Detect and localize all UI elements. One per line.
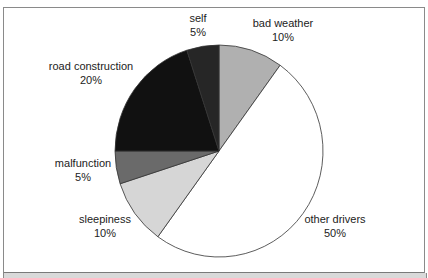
label-malfunction: malfunction 5% xyxy=(55,157,111,184)
label-self: self 5% xyxy=(189,12,206,39)
label-other-drivers-pct: 50% xyxy=(304,227,365,241)
label-self-pct: 5% xyxy=(189,26,206,40)
label-sleepiness-pct: 10% xyxy=(79,227,131,241)
label-other-drivers-name: other drivers xyxy=(304,213,365,227)
label-road-construction: road construction 20% xyxy=(49,60,133,87)
label-malfunction-name: malfunction xyxy=(55,157,111,171)
label-bad-weather-name: bad weather xyxy=(253,17,314,31)
label-road-construction-pct: 20% xyxy=(49,74,133,88)
label-malfunction-pct: 5% xyxy=(55,171,111,185)
label-self-name: self xyxy=(189,12,206,26)
label-sleepiness-name: sleepiness xyxy=(79,213,131,227)
label-road-construction-name: road construction xyxy=(49,60,133,74)
label-bad-weather: bad weather 10% xyxy=(253,17,314,44)
label-sleepiness: sleepiness 10% xyxy=(79,213,131,240)
label-other-drivers: other drivers 50% xyxy=(304,213,365,240)
label-bad-weather-pct: 10% xyxy=(253,31,314,45)
